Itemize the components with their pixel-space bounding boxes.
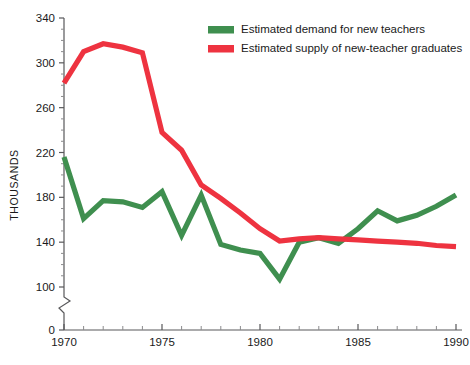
y-tick-label: 260 [36, 102, 55, 114]
x-tick-label: 1990 [443, 336, 469, 348]
y-axis-title: THOUSANDS [8, 149, 20, 220]
x-axis: 19701975198019851990 [51, 324, 469, 348]
legend-label: Estimated demand for new teachers [241, 23, 425, 35]
y-tick-label: 300 [36, 57, 55, 69]
x-tick-label: 1975 [149, 336, 175, 348]
y-axis: 0100140180220260300340 [36, 12, 70, 336]
y-tick-label: 100 [36, 281, 55, 293]
y-axis-break-symbol [59, 287, 70, 330]
series-line-demand [64, 157, 456, 279]
legend-swatch [208, 26, 234, 34]
legend-swatch [208, 45, 234, 53]
x-tick-label: 1970 [51, 336, 77, 348]
chart-legend: Estimated demand for new teachersEstimat… [208, 23, 462, 54]
y-tick-label: 340 [36, 12, 55, 24]
y-tick-label: 220 [36, 147, 55, 159]
series-line-supply [64, 44, 456, 247]
x-tick-label: 1980 [247, 336, 273, 348]
line-chart: 0100140180220260300340 19701975198019851… [0, 0, 470, 365]
y-tick-label: 140 [36, 236, 55, 248]
legend-label: Estimated supply of new-teacher graduate… [241, 42, 462, 54]
data-series-group [64, 44, 456, 279]
y-tick-label: 0 [49, 324, 55, 336]
y-tick-label: 180 [36, 191, 55, 203]
chart-container: 0100140180220260300340 19701975198019851… [0, 0, 470, 365]
x-tick-label: 1985 [345, 336, 371, 348]
y-axis-title-text: THOUSANDS [8, 149, 20, 220]
